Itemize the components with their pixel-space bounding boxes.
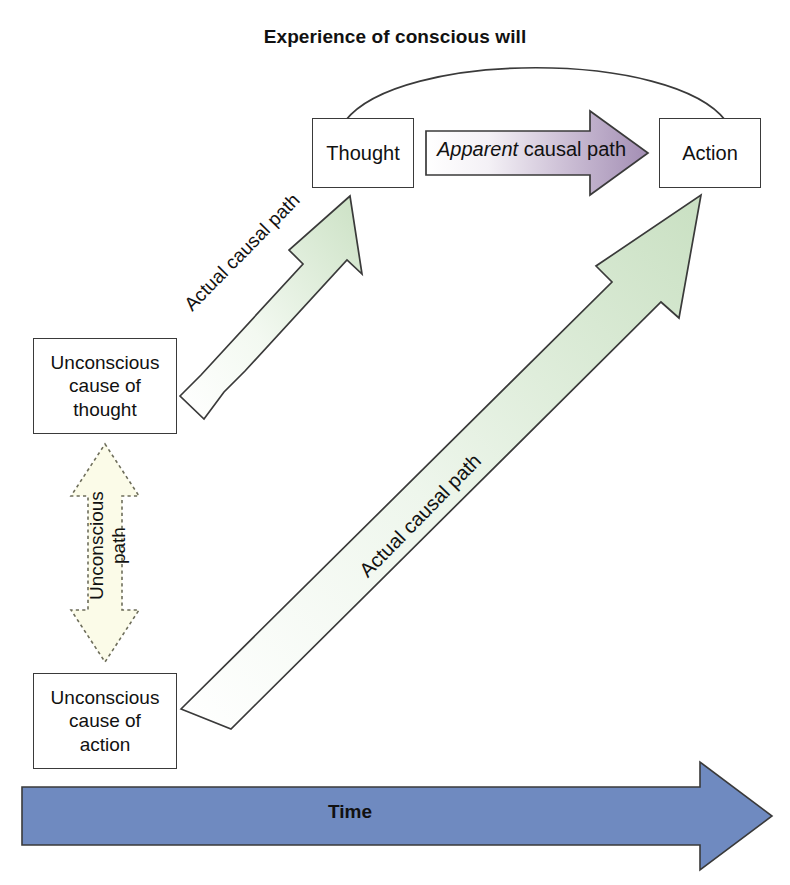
actual-causal-path-arrow-thought	[180, 196, 362, 419]
node-action-label: Action	[682, 141, 738, 165]
node-thought-label: Thought	[326, 141, 399, 165]
node-thought[interactable]: Thought	[312, 118, 414, 188]
conscious-will-arc	[345, 68, 726, 121]
node-action[interactable]: Action	[659, 118, 761, 188]
unconscious-path-arrow	[71, 444, 139, 662]
actual-causal-path-arrow-action	[181, 195, 701, 729]
apparent-causal-path-arrow	[426, 111, 648, 195]
node-unconscious-cause-of-action-label: Unconsciouscause ofaction	[51, 686, 160, 756]
node-unconscious-cause-of-thought[interactable]: Unconsciouscause ofthought	[33, 338, 177, 434]
time-axis-label: Time	[0, 801, 700, 823]
node-unconscious-cause-of-action[interactable]: Unconsciouscause ofaction	[33, 673, 177, 769]
node-unconscious-cause-of-thought-label: Unconsciouscause ofthought	[51, 351, 160, 421]
diagram-canvas: Experience of conscious will	[0, 0, 790, 885]
